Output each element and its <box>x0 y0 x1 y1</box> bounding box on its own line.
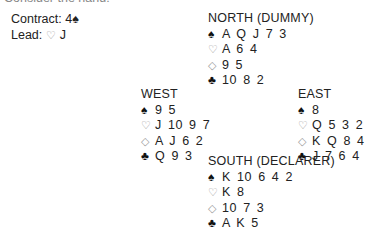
hearts-row: ♡A 6 4 <box>208 42 314 58</box>
hearts-cards: K 8 <box>222 185 245 199</box>
hand-title: NORTH (DUMMY) <box>208 11 314 27</box>
east-hand: EAST ♠8 ♡Q 5 3 2 ◇K Q 8 4 ♣J 7 6 4 <box>298 87 365 165</box>
diamonds-cards: 9 5 <box>222 58 243 72</box>
heart-icon: ♡ <box>46 27 60 43</box>
diamonds-cards: 10 7 3 <box>222 201 264 215</box>
hearts-row: ♡J 10 9 7 <box>141 118 210 134</box>
diamonds-row: ◇9 5 <box>208 58 314 74</box>
hearts-cards: J 10 9 7 <box>155 118 210 132</box>
hand-title: SOUTH (DECLARER) <box>208 154 335 170</box>
contract-line: Contract: 4♠ <box>11 11 79 27</box>
clubs-row: ♣A K 5 <box>208 216 335 228</box>
south-hand: SOUTH (DECLARER) ♠K 10 6 4 2 ♡K 8 ◇10 7 … <box>208 154 335 228</box>
spades-row: ♠9 5 <box>141 103 210 119</box>
spades-cards: 8 <box>312 103 320 117</box>
diamond-icon: ◇ <box>208 201 222 217</box>
clubs-row: ♣Q 9 3 <box>141 149 210 165</box>
heart-icon: ♡ <box>208 185 222 201</box>
hand-title: WEST <box>141 87 210 103</box>
west-hand: WEST ♠9 5 ♡J 10 9 7 ◇A J 6 2 ♣Q 9 3 <box>141 87 210 165</box>
diamonds-row: ◇K Q 8 4 <box>298 134 365 150</box>
hand-title: EAST <box>298 87 365 103</box>
spades-cards: 9 5 <box>155 103 176 117</box>
diamond-icon: ◇ <box>298 134 312 150</box>
contract-label: Contract: <box>11 12 62 26</box>
club-icon: ♣ <box>208 216 222 228</box>
heart-icon: ♡ <box>141 118 155 134</box>
diamonds-cards: A J 6 2 <box>155 134 203 148</box>
club-icon: ♣ <box>141 149 155 165</box>
spades-row: ♠A Q J 7 3 <box>208 27 314 43</box>
hearts-row: ♡K 8 <box>208 185 335 201</box>
diamonds-row: ◇A J 6 2 <box>141 134 210 150</box>
spades-cards: A Q J 7 3 <box>222 27 287 41</box>
spades-row: ♠8 <box>298 103 365 119</box>
spade-icon: ♠ <box>208 27 222 43</box>
diamond-icon: ◇ <box>208 58 222 74</box>
clubs-cards: A K 5 <box>222 216 259 228</box>
hearts-cards: A 6 4 <box>222 42 258 56</box>
diamonds-cards: K Q 8 4 <box>312 134 365 148</box>
heart-icon: ♡ <box>298 118 312 134</box>
hearts-row: ♡Q 5 3 2 <box>298 118 365 134</box>
diamonds-row: ◇10 7 3 <box>208 201 335 217</box>
spade-icon: ♠ <box>72 12 79 26</box>
spades-cards: K 10 6 4 2 <box>222 170 293 184</box>
diamond-icon: ◇ <box>141 134 155 150</box>
clubs-cards: Q 9 3 <box>155 149 193 163</box>
spades-row: ♠K 10 6 4 2 <box>208 170 335 186</box>
lead-card: J <box>60 28 66 42</box>
clubs-cards: 10 8 2 <box>222 73 264 87</box>
north-hand: NORTH (DUMMY) ♠A Q J 7 3 ♡A 6 4 ◇9 5 ♣10… <box>208 11 314 89</box>
hearts-cards: Q 5 3 2 <box>312 118 363 132</box>
heart-icon: ♡ <box>208 42 222 58</box>
clipped-intro-text: Consider the hand: <box>4 0 110 5</box>
spade-icon: ♠ <box>298 103 312 119</box>
deal-info: Contract: 4♠ Lead: ♡J <box>11 11 79 43</box>
lead-label: Lead: <box>11 28 42 42</box>
spade-icon: ♠ <box>141 103 155 119</box>
lead-line: Lead: ♡J <box>11 27 79 43</box>
spade-icon: ♠ <box>208 170 222 186</box>
